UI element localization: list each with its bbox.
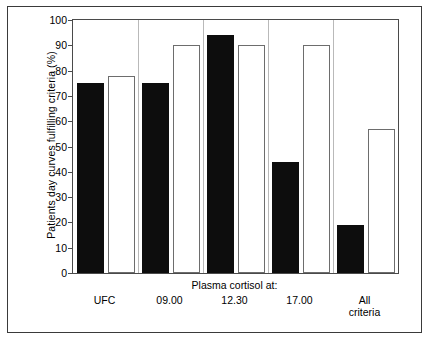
y-axis-tick-mark xyxy=(68,248,73,249)
bar-open-all-criteria xyxy=(368,129,395,273)
group-separator xyxy=(268,20,269,273)
x-axis-group-caption: Plasma cortisol at: xyxy=(192,279,278,291)
y-axis-tick-mark xyxy=(68,197,73,198)
y-axis-tick-label: 40 xyxy=(47,167,67,178)
bar-filled-all-criteria xyxy=(337,225,364,273)
chart-figure: Patients day curves fulfilling criteria … xyxy=(0,0,429,340)
bar-open-09.00 xyxy=(173,45,200,273)
y-axis-tick-mark xyxy=(68,20,73,21)
x-axis-tick-label: 09.00 xyxy=(156,295,182,307)
x-axis-tick-label: 12.30 xyxy=(221,295,247,307)
y-axis-tick-label: 0 xyxy=(47,268,67,279)
y-axis-tick-mark xyxy=(68,172,73,173)
plot-area: 0102030405060708090100 xyxy=(72,19,399,274)
y-axis-tick-label: 50 xyxy=(47,141,67,152)
x-axis-tick-label: All criteria xyxy=(349,295,381,318)
bar-open-12.30 xyxy=(238,45,265,273)
bar-open-17.00 xyxy=(303,45,330,273)
bar-filled-ufc xyxy=(77,83,104,273)
y-axis-tick-label: 90 xyxy=(47,40,67,51)
group-separator xyxy=(138,20,139,273)
y-axis-tick-label: 60 xyxy=(47,116,67,127)
plot-inner: 0102030405060708090100 xyxy=(73,20,398,273)
bar-filled-12.30 xyxy=(207,35,234,273)
y-axis-tick-mark xyxy=(68,147,73,148)
y-axis-tick-mark xyxy=(68,71,73,72)
y-axis-tick-label: 80 xyxy=(47,65,67,76)
bar-open-ufc xyxy=(108,76,135,273)
x-axis-tick-label: 17.00 xyxy=(286,295,312,307)
y-axis-tick-mark xyxy=(68,222,73,223)
y-axis-tick-label: 10 xyxy=(47,242,67,253)
y-axis-tick-mark xyxy=(68,45,73,46)
y-axis-tick-mark xyxy=(68,96,73,97)
y-axis-tick-label: 100 xyxy=(47,15,67,26)
y-axis-tick-label: 30 xyxy=(47,192,67,203)
bar-filled-09.00 xyxy=(142,83,169,273)
group-separator xyxy=(333,20,334,273)
y-axis-tick-mark xyxy=(68,121,73,122)
bar-filled-17.00 xyxy=(272,162,299,273)
y-axis-tick-label: 20 xyxy=(47,217,67,228)
group-separator xyxy=(203,20,204,273)
y-axis-tick-mark xyxy=(68,273,73,274)
x-axis-tick-label: UFC xyxy=(94,295,116,307)
y-axis-tick-label: 70 xyxy=(47,91,67,102)
x-axis-labels: Plasma cortisol at: UFC09.0012.3017.00Al… xyxy=(72,276,399,336)
